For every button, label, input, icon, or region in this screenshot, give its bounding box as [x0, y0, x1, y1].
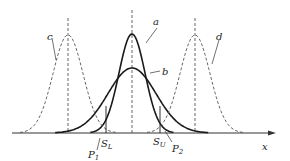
p2-label: P2 — [171, 143, 184, 156]
spec-limits — [106, 106, 160, 133]
curve-label-a: a — [153, 16, 159, 27]
center-lines — [68, 10, 195, 133]
curve-label-d: d — [216, 31, 222, 42]
distribution-diagram: x a b c d SL SU P1 P2 — [0, 0, 290, 161]
p1-label: P1 — [87, 149, 99, 161]
curves — [20, 34, 243, 133]
leader-lines — [52, 28, 219, 150]
lower-spec-label: SL — [101, 138, 113, 151]
curve-label-c: c — [47, 31, 53, 42]
x-axis-label: x — [262, 141, 268, 152]
curve-label-b: b — [162, 66, 168, 77]
upper-spec-label: SU — [153, 136, 167, 149]
